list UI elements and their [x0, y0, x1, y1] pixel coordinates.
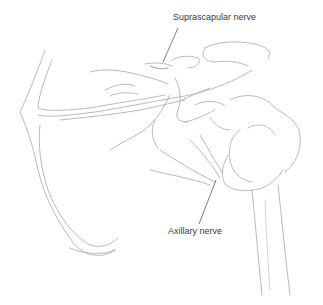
- acromion-coracoid: [145, 42, 269, 69]
- glenoid-region: [110, 78, 225, 150]
- suprascapular-leader-line: [163, 28, 178, 62]
- label-axillary-nerve: Axillary nerve: [168, 226, 222, 236]
- humerus: [222, 96, 300, 295]
- scapula-outline: [20, 50, 252, 255]
- label-suprascapular-nerve: Suprascapular nerve: [173, 12, 256, 22]
- axillary-region: [150, 118, 230, 185]
- shoulder-anatomy-illustration: [0, 0, 323, 305]
- axillary-leader-line: [199, 180, 216, 224]
